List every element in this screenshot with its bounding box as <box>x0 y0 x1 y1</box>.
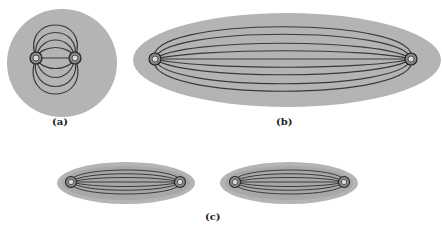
panel-a <box>7 9 117 117</box>
panel-label-b: (b) <box>276 116 292 127</box>
panel-c-left <box>57 162 195 204</box>
panel-label-a: (a) <box>52 116 68 127</box>
endpoint-left-b <box>149 53 161 65</box>
endpoint-right-c1 <box>175 177 186 188</box>
endpoint-left-c1 <box>66 177 77 188</box>
panel-b <box>133 13 441 107</box>
panel-c-right <box>220 162 358 204</box>
endpoint-left-c2 <box>230 177 241 188</box>
endpoint-left-a <box>30 52 42 64</box>
endpoint-right-c2 <box>339 177 350 188</box>
panel-label-c: (c) <box>205 211 221 222</box>
endpoint-right-b <box>405 53 417 65</box>
endpoint-right-a <box>69 52 81 64</box>
